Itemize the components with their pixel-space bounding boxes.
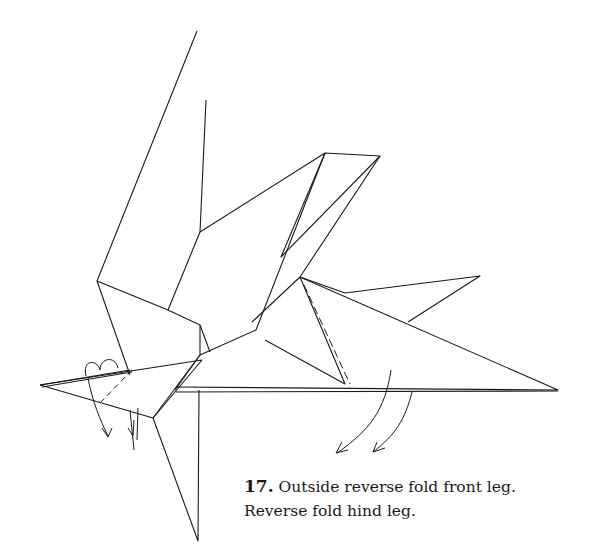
caption-line-1: 17. Outside reverse fold front leg. xyxy=(244,474,516,499)
fold-arrows xyxy=(85,360,412,453)
step-caption: 17. Outside reverse fold front leg. Reve… xyxy=(244,474,516,523)
push-arrow xyxy=(128,408,138,450)
step-number: 17. xyxy=(244,476,274,496)
instruction-text-1: Outside reverse fold front leg. xyxy=(279,478,516,496)
origami-diagram xyxy=(0,0,592,547)
valley-fold-dashed-line xyxy=(304,285,350,384)
reverse-fold-arrow xyxy=(373,392,412,452)
instruction-text-2: Reverse fold hind leg. xyxy=(244,499,516,523)
model-outline xyxy=(40,31,558,541)
outside-reverse-fold-arrow xyxy=(85,360,118,436)
